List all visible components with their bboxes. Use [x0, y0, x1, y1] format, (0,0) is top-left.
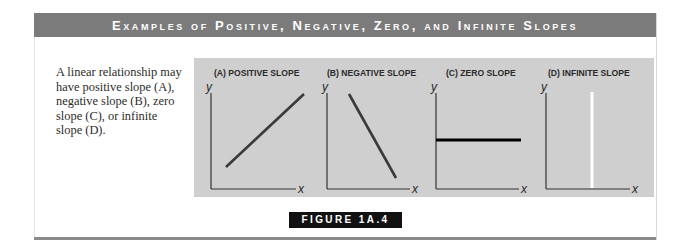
y-axis-label: y [321, 80, 329, 94]
x-axis-label: x [297, 182, 305, 196]
negative-slope-line [349, 94, 396, 178]
slope-graphs: y x y x y x y x [0, 0, 689, 243]
panel-d-graph: y x [540, 80, 639, 196]
y-axis-label: y [540, 80, 548, 94]
x-axis-label: x [411, 182, 419, 196]
figure-number-label: FIGURE 1A.4 [289, 212, 402, 228]
x-axis-label: x [631, 182, 639, 196]
panel-c-graph: y x [430, 80, 528, 196]
y-axis-label: y [205, 80, 213, 94]
y-axis-label: y [430, 80, 438, 94]
panel-a-graph: y x [205, 80, 305, 196]
bottom-rule [34, 237, 656, 240]
x-axis-label: x [520, 182, 528, 196]
panel-b-graph: y x [321, 80, 419, 196]
positive-slope-line [226, 94, 304, 167]
